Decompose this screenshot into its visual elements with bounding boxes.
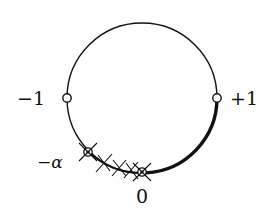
point-minus-one-icon xyxy=(63,94,71,102)
label-minus-alpha: −α xyxy=(37,152,63,172)
label-minus-one: −1 xyxy=(17,87,45,109)
crossed-circle-alpha-icon xyxy=(79,143,97,161)
cross-marker-icon xyxy=(96,154,112,172)
point-plus-one-icon xyxy=(213,94,221,102)
label-plus-one: +1 xyxy=(230,87,258,109)
label-zero: 0 xyxy=(136,185,148,207)
highlighted-arc xyxy=(146,98,217,173)
cross-marker-icon xyxy=(124,162,138,179)
unit-circle-diagram: −1 +1 −α 0 xyxy=(0,0,276,218)
